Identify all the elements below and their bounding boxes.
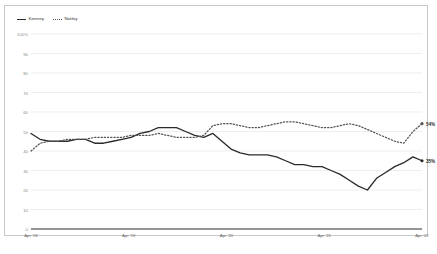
y-axis-tick-label: 50 (23, 129, 28, 134)
legend-line-solid-icon (17, 19, 26, 20)
series-line-kenney (31, 128, 422, 190)
y-axis-tick-label: 20 (23, 188, 28, 193)
x-axis-tick-label: Apr '19 (122, 233, 135, 238)
y-axis-tick-label: 0 (26, 227, 28, 232)
plot-area: 100%9080706050403020100 Apr '18Apr '19Ap… (31, 34, 422, 229)
chart-card: Kenney Notley 100%9080706050403020100 Ap… (4, 5, 428, 236)
endpoint-marker-notley (420, 122, 423, 125)
y-axis-tick-label: 80 (23, 71, 28, 76)
legend-item-notley: Notley (53, 17, 78, 21)
x-axis-tick-label: Apr '20 (220, 233, 233, 238)
legend-line-dotted-icon (53, 19, 62, 20)
series-line-notley (31, 122, 422, 151)
gridlines (31, 34, 422, 210)
end-label-notley: 54% (426, 121, 435, 126)
y-axis-tick-label: 40 (23, 149, 28, 154)
chart-legend: Kenney Notley (17, 17, 78, 21)
end-label-kenney: 35% (426, 158, 435, 163)
y-axis-tick-label: 30 (23, 168, 28, 173)
y-axis-tick-label: 70 (23, 90, 28, 95)
series-layer (31, 122, 424, 190)
x-axis-tick-label: Apr '22 (415, 233, 428, 238)
y-axis-tick-label: 10 (23, 207, 28, 212)
legend-label-notley: Notley (65, 17, 78, 21)
chart-svg (31, 34, 422, 229)
endpoint-marker-kenney (420, 159, 423, 162)
x-axis-tick-label: Apr '18 (24, 233, 37, 238)
y-axis-tick-label: 100% (17, 32, 28, 37)
legend-item-kenney: Kenney (17, 17, 44, 21)
legend-label-kenney: Kenney (29, 17, 45, 21)
y-axis-tick-label: 60 (23, 110, 28, 115)
x-axis-tick-label: Apr '21 (318, 233, 331, 238)
y-axis-tick-label: 90 (23, 51, 28, 56)
